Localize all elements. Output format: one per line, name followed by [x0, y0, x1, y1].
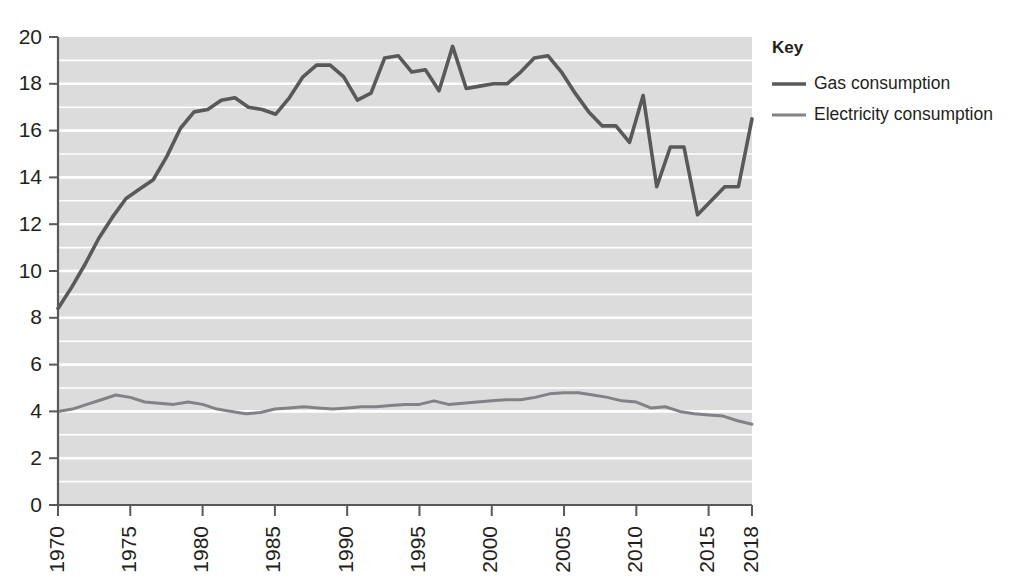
x-tick-label: 2010 [623, 526, 646, 573]
y-tick-label: 10 [19, 259, 42, 282]
y-tick-label: 18 [19, 71, 42, 94]
y-tick-label: 8 [30, 305, 42, 328]
legend-item-gas-consumption: Gas consumption [772, 73, 950, 93]
x-tick-label: 2005 [551, 526, 574, 573]
chart-legend: Key Gas consumption Electricity consumpt… [772, 38, 993, 123]
y-tick-label: 12 [19, 212, 42, 235]
x-tick-label: 1985 [261, 526, 284, 573]
y-tick-label: 16 [19, 118, 42, 141]
x-axis-ticks: 1970197519801985199019952000200520102015… [45, 505, 762, 573]
y-tick-label: 14 [19, 165, 43, 188]
x-tick-label: 1980 [189, 526, 212, 573]
y-tick-label: 0 [30, 493, 42, 516]
x-tick-label: 1970 [45, 526, 68, 573]
legend-item-electricity-consumption: Electricity consumption [772, 104, 993, 124]
x-tick-label: 1995 [406, 526, 429, 573]
y-tick-label: 4 [30, 399, 42, 422]
line-chart: 02468101214161820 1970197519801985199019… [0, 0, 1034, 582]
x-tick-label: 2018 [739, 526, 762, 573]
legend-label-electricity-consumption: Electricity consumption [814, 104, 993, 124]
legend-label-gas-consumption: Gas consumption [814, 73, 950, 93]
legend-title: Key [772, 38, 804, 57]
x-tick-label: 2015 [695, 526, 718, 573]
y-tick-label: 6 [30, 352, 42, 375]
chart-canvas: 02468101214161820 1970197519801985199019… [0, 0, 1034, 582]
y-axis-ticks: 02468101214161820 [19, 25, 58, 516]
x-tick-label: 1990 [334, 526, 357, 573]
y-tick-label: 20 [19, 25, 42, 48]
x-tick-label: 2000 [478, 526, 501, 573]
x-tick-label: 1975 [117, 526, 140, 573]
y-tick-label: 2 [30, 446, 42, 469]
